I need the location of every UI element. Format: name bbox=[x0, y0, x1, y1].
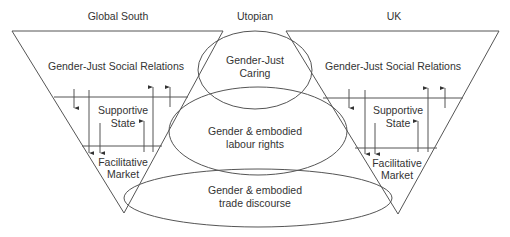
labour-rights-label-line1: Gender & embodied bbox=[208, 125, 302, 137]
right-supportive-label: Supportive bbox=[373, 104, 423, 116]
right-state-label: State bbox=[386, 117, 411, 129]
trade-discourse-label-line1: Gender & embodied bbox=[208, 184, 302, 196]
heading-global-south: Global South bbox=[88, 10, 149, 22]
left-facilitative-label: Facilitative bbox=[98, 156, 148, 168]
right-funnel: Gender-Just Social Relations Supportive … bbox=[286, 31, 499, 214]
left-social-relations-label: Gender-Just Social Relations bbox=[48, 60, 184, 72]
labour-rights-label-line2: labour rights bbox=[226, 138, 284, 150]
right-market-label: Market bbox=[381, 169, 413, 181]
left-market-label: Market bbox=[107, 168, 139, 180]
right-social-relations-label: Gender-Just Social Relations bbox=[325, 60, 461, 72]
left-funnel: Gender-Just Social Relations Supportive … bbox=[12, 31, 223, 213]
heading-uk: UK bbox=[387, 10, 402, 22]
heading-utopian: Utopian bbox=[237, 10, 273, 22]
left-state-label: State bbox=[111, 117, 136, 129]
left-supportive-label: Supportive bbox=[98, 104, 148, 116]
caring-label-line1: Gender-Just bbox=[226, 54, 284, 66]
diagram-canvas: Global South Utopian UK Gender-Just Soci… bbox=[0, 0, 510, 237]
caring-label-line2: Caring bbox=[240, 67, 271, 79]
trade-discourse-label-line2: trade discourse bbox=[219, 197, 291, 209]
right-facilitative-label: Facilitative bbox=[372, 157, 422, 169]
